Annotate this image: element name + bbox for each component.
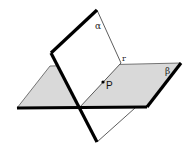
label-p: P (106, 80, 113, 91)
diagram-canvas: α r β P (0, 0, 190, 150)
label-r: r (122, 54, 126, 63)
label-beta: β (165, 66, 170, 76)
plane-beta-front-edge (17, 107, 147, 108)
label-alpha: α (95, 21, 101, 31)
point-p-marker (101, 80, 104, 83)
planes-diagram: α r β P (0, 0, 190, 150)
plane-alpha-bottom-right-edge (97, 108, 135, 142)
